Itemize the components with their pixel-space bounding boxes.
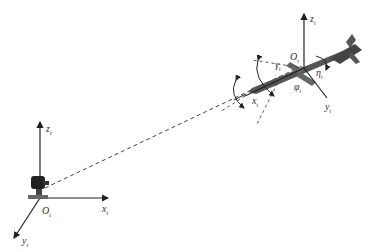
ref-dashed-left bbox=[220, 96, 245, 112]
label-angle-gamma: γt bbox=[275, 60, 281, 72]
label-ground-z: zr bbox=[46, 124, 52, 136]
label-angle-eta: ηt bbox=[316, 68, 323, 80]
ground-y-axis bbox=[14, 198, 40, 238]
label-ground-y: yr bbox=[22, 236, 28, 248]
diagram-canvas: zr xr yr Or zt Ot xt yt γt ηt φt bbox=[0, 0, 368, 252]
label-ground-origin: Or bbox=[42, 206, 51, 218]
label-angle-phi: φt bbox=[294, 82, 301, 94]
label-target-x: xt bbox=[252, 96, 258, 108]
label-target-z: zt bbox=[310, 14, 316, 26]
label-target-y: yt bbox=[325, 102, 331, 114]
label-target-origin: Ot bbox=[290, 52, 299, 64]
target-frame bbox=[220, 14, 362, 126]
label-ground-x: xr bbox=[102, 204, 108, 216]
diagram-svg bbox=[0, 0, 368, 252]
